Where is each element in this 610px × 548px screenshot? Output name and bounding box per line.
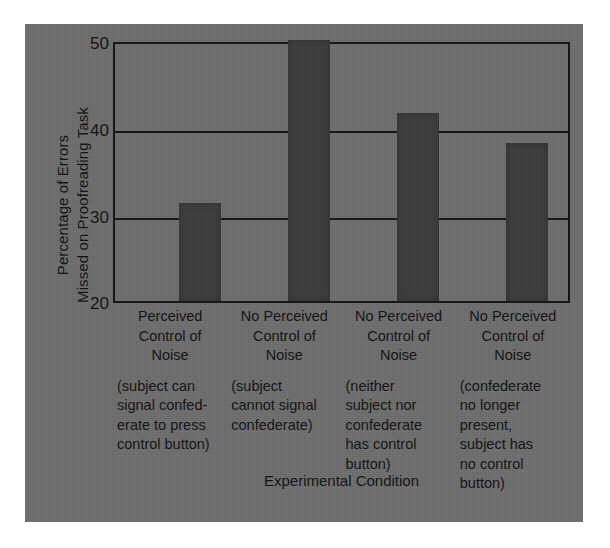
x-label-line: (neither xyxy=(346,377,452,397)
x-label-line: signal confed- xyxy=(117,396,223,416)
x-label-line: (confederate xyxy=(460,377,566,397)
y-tick-30: 30 xyxy=(73,209,109,226)
x-label-head-4: No Perceived Control of Noise xyxy=(460,307,566,366)
x-label-line: Noise xyxy=(346,346,452,366)
x-label-detail-2: (subject cannot signal confederate) xyxy=(231,377,337,436)
bar-no-perceived-control-neither xyxy=(397,113,439,301)
y-axis-tick-labels: 50 40 30 20 xyxy=(69,24,109,522)
x-axis-tick-labels: Perceived Control of Noise (subject can … xyxy=(113,307,570,494)
x-label-line: present, xyxy=(460,416,566,436)
y-tick-20: 20 xyxy=(73,295,109,312)
x-label-head-2: No Perceived Control of Noise xyxy=(231,307,337,366)
x-label-line: confederate xyxy=(346,416,452,436)
x-label-line: Control of xyxy=(460,327,566,347)
x-label-line: No Perceived xyxy=(460,307,566,327)
x-label-line: Control of xyxy=(231,327,337,347)
x-label-line: control button) xyxy=(117,435,223,455)
x-label-detail-3: (neither subject nor confederate has con… xyxy=(346,377,452,475)
x-label-line: confederate) xyxy=(231,416,337,436)
x-label-head-3: No Perceived Control of Noise xyxy=(346,307,452,366)
bar-no-perceived-control-absent xyxy=(506,143,548,301)
x-label-line: (subject can xyxy=(117,377,223,397)
x-label-line: Noise xyxy=(231,346,337,366)
x-label-line: Noise xyxy=(460,346,566,366)
x-label-line: has control xyxy=(346,435,452,455)
x-label-group-1: Perceived Control of Noise (subject can … xyxy=(113,307,227,494)
x-label-line: no longer xyxy=(460,396,566,416)
plot-area xyxy=(113,42,570,303)
x-axis-title: Experimental Condition xyxy=(113,472,570,490)
x-label-line: Control of xyxy=(117,327,223,347)
x-label-group-2: No Perceived Control of Noise (subject c… xyxy=(227,307,341,494)
x-label-line: Noise xyxy=(117,346,223,366)
x-label-group-3: No Perceived Control of Noise (neither s… xyxy=(342,307,456,494)
bar-perceived-control xyxy=(179,203,221,301)
y-tick-40: 40 xyxy=(73,122,109,139)
x-label-line: subject nor xyxy=(346,396,452,416)
x-label-line: erate to press xyxy=(117,416,223,436)
gridline-40 xyxy=(115,131,568,133)
y-tick-50: 50 xyxy=(73,35,109,52)
x-label-line: (subject xyxy=(231,377,337,397)
x-label-detail-1: (subject can signal confed- erate to pre… xyxy=(117,377,223,455)
x-label-line: No Perceived xyxy=(231,307,337,327)
x-label-group-4: No Perceived Control of Noise (confedera… xyxy=(456,307,570,494)
x-label-line: Perceived xyxy=(117,307,223,327)
x-label-head-1: Perceived Control of Noise xyxy=(117,307,223,366)
bar-no-perceived-control-cannot-signal xyxy=(288,40,330,301)
x-label-line: Control of xyxy=(346,327,452,347)
x-label-line: cannot signal xyxy=(231,396,337,416)
bar-chart-figure: Percentage of Errors Missed on Proofread… xyxy=(25,24,583,522)
x-label-line: No Perceived xyxy=(346,307,452,327)
x-label-line: subject has xyxy=(460,435,566,455)
